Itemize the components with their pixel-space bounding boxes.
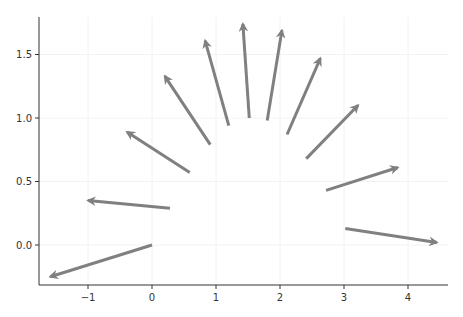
arrow	[345, 228, 437, 242]
arrow	[165, 76, 210, 145]
arrow	[243, 24, 249, 118]
y-axis-ticks: 0.00.51.01.5	[16, 49, 39, 251]
arrow	[326, 168, 398, 191]
y-tick-label: 1.0	[16, 113, 32, 124]
arrow	[50, 245, 152, 277]
arrow	[306, 105, 358, 158]
arrow-series	[50, 24, 437, 277]
x-tick-label: 1	[213, 292, 219, 303]
y-tick-label: 0.0	[16, 240, 32, 251]
arrow	[127, 132, 190, 173]
x-tick-label: −1	[81, 292, 96, 303]
arrow	[287, 58, 320, 134]
y-tick-label: 0.5	[16, 176, 32, 187]
quiver-chart: −101234 0.00.51.01.5	[0, 0, 463, 317]
x-tick-label: 3	[341, 292, 347, 303]
x-tick-label: 2	[277, 292, 283, 303]
grid-lines	[39, 17, 448, 285]
x-axis-ticks: −101234	[81, 285, 412, 303]
x-tick-label: 0	[149, 292, 155, 303]
x-tick-label: 4	[405, 292, 411, 303]
arrow	[205, 41, 229, 126]
y-tick-label: 1.5	[16, 49, 32, 60]
arrow	[88, 201, 170, 209]
